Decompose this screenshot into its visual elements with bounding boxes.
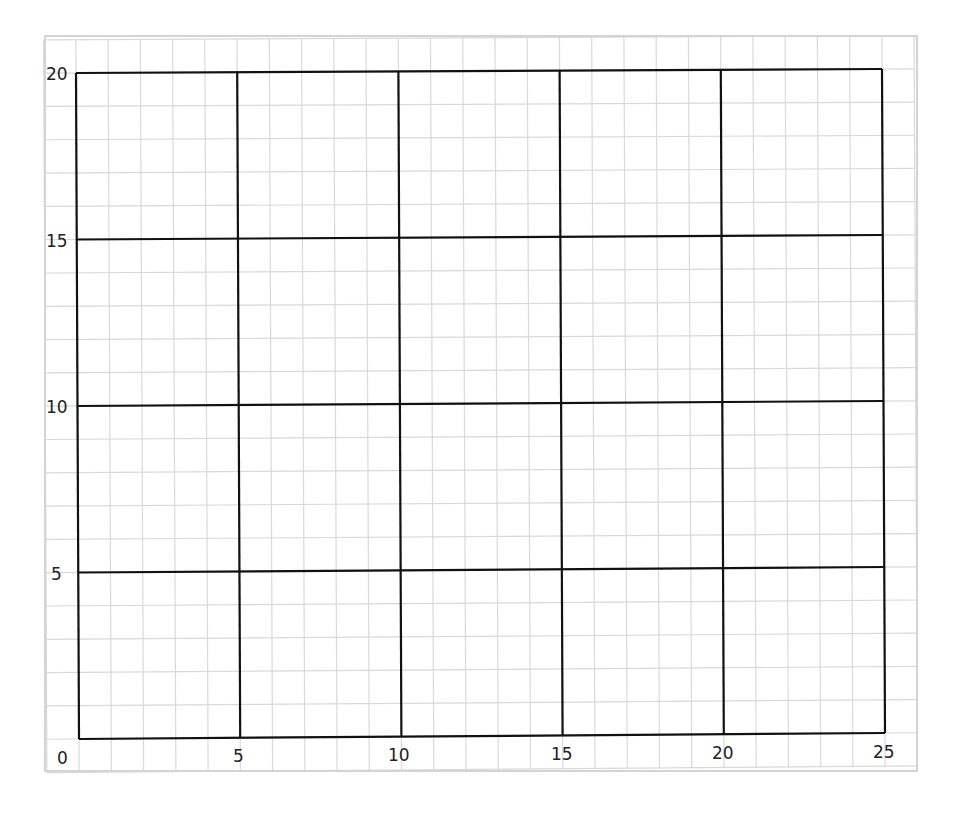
x-tick-label-5: 5 — [233, 746, 244, 766]
y-tick-label-15: 15 — [46, 231, 68, 251]
x-tick-label-15: 15 — [551, 744, 573, 764]
x-tick-label-0: 0 — [57, 748, 68, 768]
y-tick-label-20: 20 — [46, 64, 68, 84]
x-tick-label-20: 20 — [712, 743, 734, 763]
x-tick-label-10: 10 — [388, 745, 410, 765]
y-tick-label-10: 10 — [46, 397, 68, 417]
y-tick-label-5: 5 — [51, 564, 62, 584]
grid-chart: 20 15 10 5 0 5 10 15 20 25 — [0, 0, 963, 825]
x-tick-label-25: 25 — [873, 742, 895, 762]
